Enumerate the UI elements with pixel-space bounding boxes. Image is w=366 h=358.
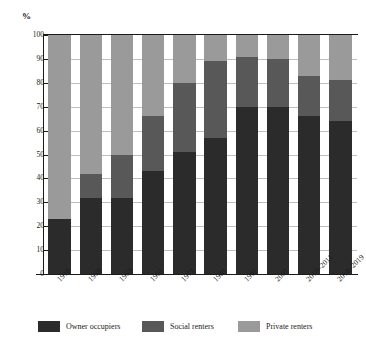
bar-segment	[142, 116, 164, 171]
y-axis-tick-label: 80	[24, 79, 44, 87]
bar-segment	[48, 219, 70, 274]
bar-stack	[80, 35, 102, 274]
plot-area	[44, 35, 356, 274]
bar-stack	[267, 35, 289, 274]
bar-segment	[236, 107, 258, 274]
bar-segment	[298, 76, 320, 117]
bar-segment	[267, 35, 289, 59]
bar-segment	[204, 138, 226, 274]
bar-stack	[236, 35, 258, 274]
bar-segment	[329, 121, 351, 274]
chart-legend: Owner occupiersSocial rentersPrivate ren…	[38, 320, 338, 334]
bar-segment	[298, 116, 320, 274]
legend-item-label: Social renters	[170, 322, 214, 331]
bar-stack	[48, 35, 70, 274]
bar-segment	[173, 35, 195, 83]
bar-segment	[329, 80, 351, 121]
bar-segment	[173, 152, 195, 274]
bar-segment	[111, 35, 133, 155]
bar-segment	[80, 174, 102, 198]
y-axis-tick-label: 100	[24, 31, 44, 39]
stacked-bar-chart: % 0102030405060708090100 191819391953196…	[0, 0, 366, 358]
bar-segment	[298, 35, 320, 76]
bar-stack	[298, 35, 320, 274]
bar-segment	[142, 35, 164, 116]
bar-segment	[80, 35, 102, 174]
legend-item-label: Owner occupiers	[66, 322, 120, 331]
bar-segment	[236, 57, 258, 107]
bar-segment	[80, 198, 102, 274]
bar-segment	[267, 107, 289, 274]
bar-segment	[329, 35, 351, 80]
legend-item[interactable]: Social renters	[142, 320, 214, 332]
bar-segment	[111, 198, 133, 274]
bar-stack	[111, 35, 133, 274]
legend-item[interactable]: Owner occupiers	[38, 320, 120, 332]
y-axis-tick-label: 50	[24, 151, 44, 159]
bar-segment	[204, 61, 226, 137]
bar-segment	[48, 35, 70, 219]
legend-swatch	[38, 321, 60, 332]
bar-segment	[204, 35, 226, 61]
bar-segment	[173, 83, 195, 152]
y-axis-tick-label: 30	[24, 198, 44, 206]
bar-stack	[204, 35, 226, 274]
legend-item-label: Private renters	[266, 322, 312, 331]
y-axis-tick-label: 90	[24, 55, 44, 63]
legend-swatch	[142, 321, 164, 332]
bar-segment	[236, 35, 258, 57]
y-axis-unit-label: %	[22, 11, 31, 21]
y-axis-tick-label: 0	[24, 270, 44, 278]
y-axis-tick-label: 20	[24, 222, 44, 230]
bar-stack	[329, 35, 351, 274]
bar-segment	[111, 155, 133, 198]
bar-stack	[142, 35, 164, 274]
y-axis-tick-label: 60	[24, 127, 44, 135]
y-axis-tick-label: 40	[24, 174, 44, 182]
bar-segment	[142, 171, 164, 274]
y-axis-tick-mark	[43, 274, 49, 275]
y-axis-tick-label: 10	[24, 246, 44, 254]
legend-swatch	[238, 321, 260, 332]
bar-segment	[267, 59, 289, 107]
y-axis-tick-label: 70	[24, 103, 44, 111]
legend-item[interactable]: Private renters	[238, 320, 312, 332]
bar-stack	[173, 35, 195, 274]
